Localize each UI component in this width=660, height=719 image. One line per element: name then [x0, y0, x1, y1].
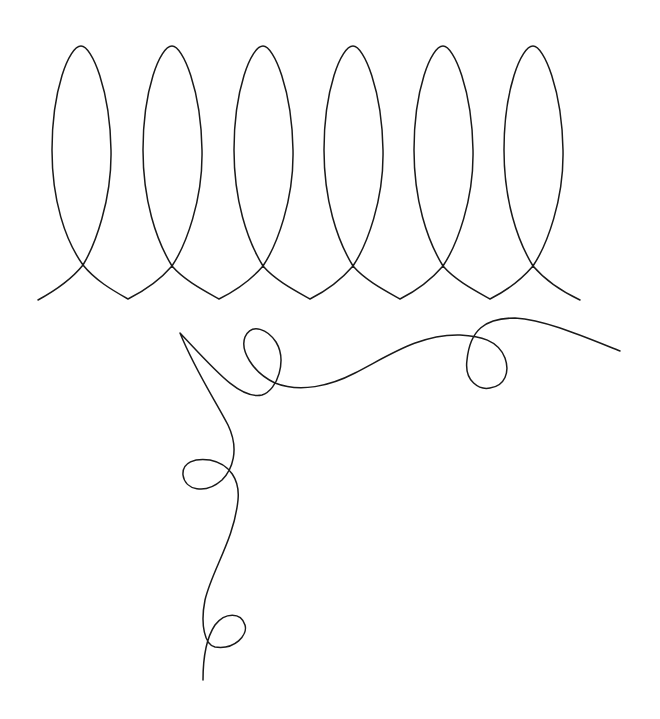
looped-coil — [38, 46, 580, 300]
curly-line — [180, 318, 620, 680]
drawing-canvas — [0, 0, 660, 719]
